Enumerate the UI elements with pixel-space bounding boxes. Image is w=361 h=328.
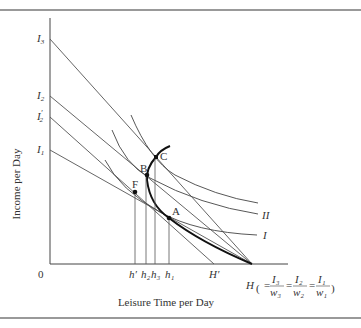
origin-label: 0 — [38, 268, 44, 280]
frac1-den: w₃ — [270, 286, 281, 298]
paren-close: ) — [331, 282, 335, 295]
budget-line-i2 — [50, 96, 252, 264]
point-f-marker — [133, 190, 138, 195]
y-tick-i2-prime: I′2 — [36, 109, 43, 124]
x-tick-h1: h₁ — [165, 268, 175, 280]
paren-open: ( — [256, 282, 260, 295]
h-label: H — [245, 279, 255, 291]
eq2: = — [286, 279, 292, 291]
frac2-num: I₂ — [294, 273, 303, 285]
point-c-marker — [154, 155, 158, 159]
x-tick-h-prime: h′ — [129, 268, 138, 280]
y-tick-i2: I2 — [36, 89, 45, 103]
frac2-den: w₂ — [293, 286, 304, 298]
x-tick-h-prime-cap: H′ — [208, 268, 220, 280]
point-f-label: F — [132, 178, 138, 190]
h-formula: H ( = I₃ w₃ = I₂ w₂ = I₁ w₁ ) — [245, 273, 335, 298]
labor-supply-diagram: A B C F II I I3 I2 I′2 I1 0 h′ h₂ h₃ h₁ … — [0, 0, 361, 328]
curve-ii-label: II — [261, 209, 271, 221]
point-a-marker — [167, 216, 172, 221]
y-tick-i1: I1 — [36, 143, 44, 157]
y-tick-i3: I3 — [36, 32, 45, 46]
x-axis-title: Leisure Time per Day — [118, 296, 215, 308]
frac3-num: I₁ — [317, 273, 326, 285]
x-tick-h2: h₂ — [141, 268, 151, 280]
eq3: = — [309, 279, 315, 291]
point-b-label: B — [140, 162, 147, 174]
y-axis-title: Income per Day — [10, 148, 22, 219]
budget-line-i2-prime — [50, 117, 214, 264]
frac1-num: I₃ — [271, 273, 280, 285]
point-c-label: C — [160, 150, 167, 162]
point-a-label: A — [172, 205, 180, 217]
curve-i-label: I — [262, 229, 268, 241]
frac3-den: w₁ — [316, 286, 327, 298]
indifference-curve-ii — [112, 130, 258, 214]
x-tick-h3: h₃ — [151, 268, 161, 280]
indifference-curve-iii — [131, 115, 258, 203]
